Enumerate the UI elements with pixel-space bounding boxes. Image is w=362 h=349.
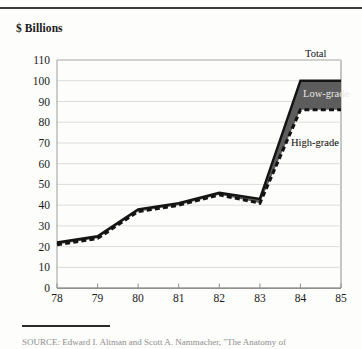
y-tick-80: 80 [20,117,50,127]
y-tick-50: 50 [20,179,50,189]
y-tick-40: 40 [20,200,50,210]
series-label-total: Total [305,48,326,59]
source-note: SOURCE: Edward I. Altman and Scott A. Na… [22,337,358,348]
y-tick-110: 110 [20,55,50,65]
x-tick-78: 78 [45,293,69,304]
x-tick-79: 79 [86,293,110,304]
y-tick-90: 90 [20,97,50,107]
y-tick-30: 30 [20,221,50,231]
x-tick-82: 82 [207,293,231,304]
y-tick-70: 70 [20,138,50,148]
x-tick-80: 80 [126,293,150,304]
x-tick-83: 83 [248,293,272,304]
y-tick-10: 10 [20,262,50,272]
y-tick-100: 100 [20,76,50,86]
y-tick-60: 60 [20,159,50,169]
footer-rule [22,325,110,327]
x-tick-81: 81 [167,293,191,304]
y-tick-0: 0 [20,283,50,293]
x-tick-85: 85 [329,293,353,304]
series-label-high-grade: High-grade [291,137,339,148]
y-tick-20: 20 [20,242,50,252]
x-tick-84: 84 [288,293,312,304]
x-axis-ticks [57,284,341,289]
low-grade-band [57,81,341,245]
series-label-low-grade: Low-grade [303,88,349,99]
high-grade-series-line [57,110,341,245]
